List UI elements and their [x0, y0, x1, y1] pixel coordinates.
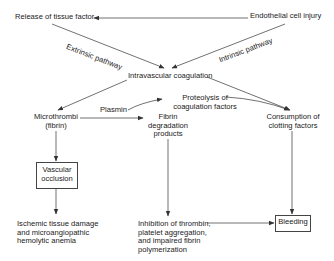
bleeding-text: Bleeding [275, 218, 311, 227]
node-plasmin: Plasmin [100, 106, 127, 115]
node-intravascular-coagulation: Intravascular coagulation [128, 72, 212, 81]
node-proteolysis: Proteolysis of coagulation factors [163, 94, 247, 111]
inhibition-line-4: polymerization [138, 246, 211, 255]
node-inhibition: Inhibition of thrombin, platelet aggrega… [138, 220, 211, 254]
ischemic-line-3: hemolytic anemia [17, 237, 98, 246]
node-consumption-clotting-factors: Consumption of clotting factors [256, 113, 330, 130]
node-fibrin-degradation-products: Fibrin degradation products [138, 113, 198, 139]
node-microthrombi: Microthrombi (fibrin) [26, 113, 86, 130]
vascular-occlusion-line-2: occlusion [36, 175, 78, 184]
node-release-tissue-factor: Release of tissue factor [15, 13, 94, 22]
proteolysis-line-2: coagulation factors [163, 103, 247, 112]
edge-plasmin-to-proteolysis [128, 99, 162, 110]
consumption-line-2: clotting factors [256, 122, 330, 131]
node-ischemic-damage: Ischemic tissue damage and microangiopat… [17, 220, 98, 246]
vascular-occlusion-text: Vascular occlusion [36, 166, 78, 183]
node-endothelial-injury: Endothelial cell injury [250, 12, 321, 21]
fdp-line-3: products [138, 130, 198, 139]
microthrombi-line-2: (fibrin) [26, 122, 86, 131]
